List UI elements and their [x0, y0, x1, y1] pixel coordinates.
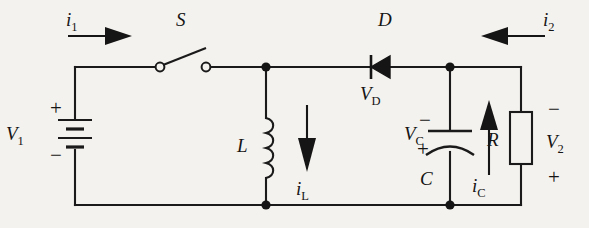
label-resistor: R [486, 129, 499, 150]
inductor-symbol [266, 118, 273, 178]
circuit-diagram: i1 S D i2 VD V1 + − L iL VC − + [0, 0, 589, 228]
label-capacitor-current: iC [472, 175, 486, 200]
label-i1: i1 [66, 9, 78, 34]
label-diode: D [377, 9, 392, 30]
label-output-voltage: V2 [546, 131, 564, 156]
junction-dot-inductor-top [261, 62, 270, 71]
junction-dot-capacitor-top [445, 62, 454, 71]
i1-arrow-head [105, 27, 132, 45]
il-arrow-head [298, 138, 316, 172]
junction-dot-inductor-bottom [261, 200, 270, 209]
label-output-minus: − [548, 97, 560, 121]
current-arrow-i2 [481, 27, 545, 45]
label-output-plus: + [548, 165, 560, 189]
current-arrow-il [298, 105, 316, 172]
label-source-voltage: V1 [6, 123, 24, 148]
resistor-body [510, 112, 532, 164]
current-arrow-i1 [68, 27, 132, 45]
inductor-coils [266, 118, 273, 178]
switch-right-terminal[interactable] [202, 63, 211, 72]
label-source-minus: − [50, 143, 62, 167]
label-i2: i2 [543, 9, 555, 34]
label-capacitor-minus: − [419, 108, 431, 132]
switch-symbol[interactable] [156, 48, 211, 71]
circuit-svg: i1 S D i2 VD V1 + − L iL VC − + [0, 0, 589, 228]
label-capacitor: C [420, 168, 433, 189]
switch-blade[interactable] [163, 48, 206, 65]
label-inductor: L [236, 135, 248, 156]
label-source-plus: + [50, 96, 62, 120]
label-inductor-current: iL [296, 178, 309, 203]
label-diode-voltage: VD [360, 83, 381, 108]
battery-symbol [58, 120, 92, 147]
label-switch: S [176, 9, 186, 30]
i2-arrow-head [481, 27, 508, 45]
resistor-symbol [510, 112, 532, 164]
diode-triangle [371, 56, 390, 78]
ic-arrow-head [480, 100, 498, 130]
label-capacitor-plus: + [417, 137, 429, 161]
junction-dot-capacitor-bottom [445, 200, 454, 209]
diode-symbol [371, 55, 390, 79]
